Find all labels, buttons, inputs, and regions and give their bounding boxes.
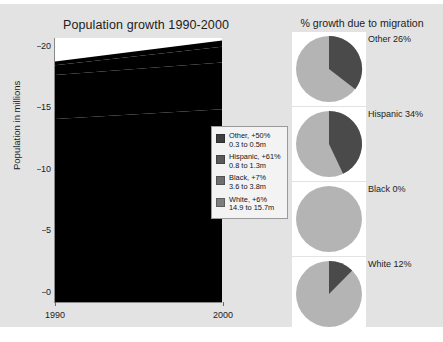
legend-swatch-other-icon — [216, 134, 225, 143]
legend-black-line2: 3.6 to 3.8m — [229, 182, 266, 191]
pie-hispanic-svg — [292, 107, 366, 181]
legend-swatch-hispanic-icon — [216, 155, 225, 164]
ytick-0: 0 — [46, 287, 51, 297]
pie-panel-white — [292, 257, 366, 331]
pie-black-base — [296, 186, 362, 252]
legend-white-line2: 14.9 to 15.7m — [229, 203, 274, 212]
figure-root: Population growth 1990-2000 0 5 10 15 20… — [0, 0, 443, 342]
pie-other-svg — [292, 32, 366, 106]
stacked-area-svg — [55, 38, 222, 302]
chart-legend: Other, +50% 0.3 to 0.5m Hispanic, +61% 0… — [211, 126, 288, 219]
pie-white-svg — [292, 257, 366, 331]
pie-label-hispanic: Hispanic 34% — [368, 109, 423, 119]
pie-panel-black — [292, 182, 366, 256]
legend-item-black: Black, +7% 3.6 to 3.8m — [216, 174, 282, 191]
legend-item-other: Other, +50% 0.3 to 0.5m — [216, 132, 282, 149]
migration-pies: % growth due to migration Other 26% Hisp… — [286, 8, 438, 320]
ytick-15: 15 — [41, 102, 51, 112]
xtick-2000: 2000 — [213, 310, 233, 320]
area-white — [55, 109, 222, 302]
legend-label-white: White, +6% 14.9 to 15.7m — [229, 196, 274, 213]
plot-area: 0 5 10 15 20 1990 2000 — [54, 38, 222, 303]
y-axis-label: Population in millions — [11, 81, 22, 170]
pies-title: % growth due to migration — [286, 17, 438, 29]
legend-swatch-white-icon — [216, 198, 225, 207]
xtick-1990: 1990 — [45, 310, 65, 320]
pie-label-other: Other 26% — [368, 34, 411, 44]
pie-label-black: Black 0% — [368, 184, 406, 194]
legend-item-hispanic: Hispanic, +61% 0.8 to 1.3m — [216, 153, 282, 170]
chart-title: Population growth 1990-2000 — [26, 18, 266, 32]
legend-hispanic-line2: 0.8 to 1.3m — [229, 161, 266, 170]
legend-other-line2: 0.3 to 0.5m — [229, 140, 266, 149]
legend-label-black: Black, +7% 3.6 to 3.8m — [229, 174, 266, 191]
legend-item-white: White, +6% 14.9 to 15.7m — [216, 196, 282, 213]
pie-label-white: White 12% — [368, 259, 412, 269]
ytick-5: 5 — [46, 225, 51, 235]
ytick-10: 10 — [41, 164, 51, 174]
legend-swatch-black-icon — [216, 176, 225, 185]
legend-label-other: Other, +50% 0.3 to 0.5m — [229, 132, 270, 149]
pie-black-svg — [292, 182, 366, 256]
pie-panel-hispanic — [292, 107, 366, 181]
legend-label-hispanic: Hispanic, +61% 0.8 to 1.3m — [229, 153, 281, 170]
pie-panel-other — [292, 32, 366, 106]
ytick-20: 20 — [41, 41, 51, 51]
population-growth-chart: Population growth 1990-2000 0 5 10 15 20… — [8, 8, 280, 320]
